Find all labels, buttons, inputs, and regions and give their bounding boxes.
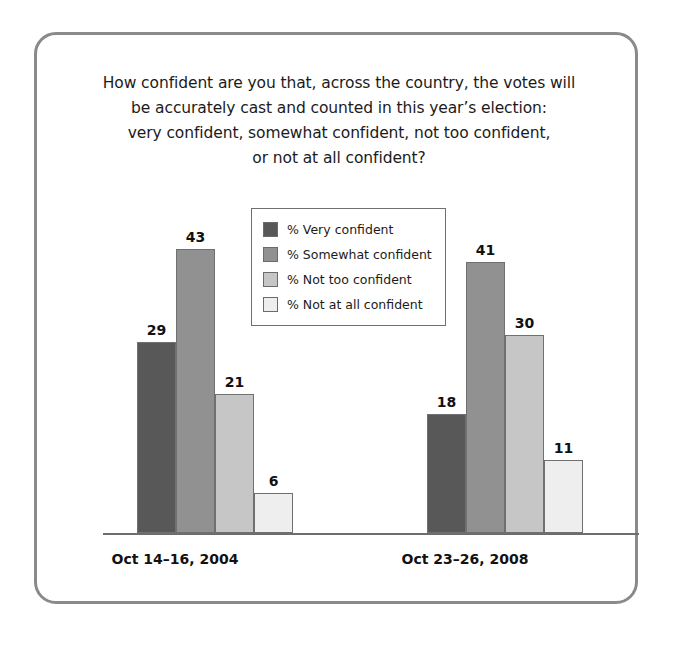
- chart-panel: How confident are you that, across the c…: [34, 32, 638, 604]
- bar-value-label: 18: [437, 395, 456, 409]
- bar-value-label: 30: [515, 316, 534, 330]
- bar-rect: [427, 414, 466, 533]
- x-axis-line: [103, 533, 639, 535]
- bar-item: 11: [544, 441, 583, 533]
- bar-value-label: 11: [554, 441, 573, 455]
- bar-value-label: 43: [186, 230, 205, 244]
- bar-rect: [466, 262, 505, 533]
- bar-item: 41: [466, 243, 505, 533]
- x-axis-category-label: Oct 14–16, 2004: [55, 551, 295, 567]
- x-axis-category-label: Oct 23–26, 2008: [345, 551, 585, 567]
- chart-plot-area: 29 43 21 6 18: [37, 35, 641, 607]
- bar-rect: [505, 335, 544, 533]
- bar-value-label: 6: [269, 474, 279, 488]
- bar-rect: [254, 493, 293, 533]
- bar-group-bars: 29 43 21 6: [137, 203, 293, 533]
- bar-item: 30: [505, 316, 544, 533]
- bar-value-label: 21: [225, 375, 244, 389]
- bar-item: 18: [427, 395, 466, 533]
- bar-rect: [137, 342, 176, 533]
- bar-rect: [544, 460, 583, 533]
- bar-item: 29: [137, 323, 176, 533]
- bar-item: 6: [254, 474, 293, 533]
- bar-rect: [176, 249, 215, 533]
- bar-value-label: 41: [476, 243, 495, 257]
- bar-value-label: 29: [147, 323, 166, 337]
- bar-rect: [215, 394, 254, 533]
- bar-item: 21: [215, 375, 254, 533]
- bar-item: 43: [176, 230, 215, 533]
- bar-group-bars: 18 41 30 11: [427, 203, 583, 533]
